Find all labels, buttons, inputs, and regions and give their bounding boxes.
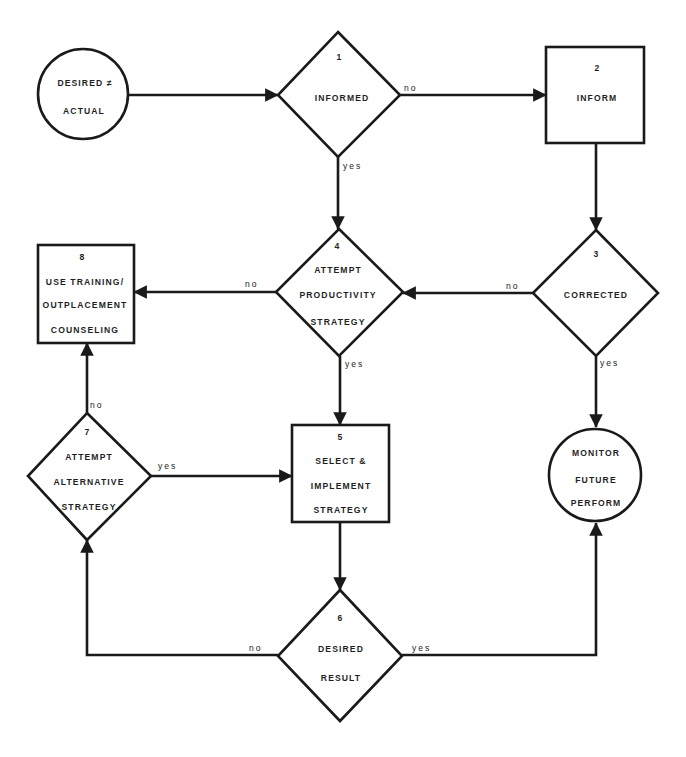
node-number: 5 <box>338 432 343 442</box>
node-label: PRODUCTIVITY <box>299 290 376 300</box>
edge-label-no: no <box>90 400 104 410</box>
node-label: CORRECTED <box>564 290 628 300</box>
node-8-use-training-outplacement-counseling: 8 USE TRAINING/ OUTPLACEMENT COUNSELING <box>38 245 134 343</box>
edge-label-yes: yes <box>158 461 177 471</box>
node-label: INFORM <box>577 93 618 103</box>
edge-label-yes: yes <box>343 161 362 171</box>
node-label: INFORMED <box>315 93 370 103</box>
node-label: OUTPLACEMENT <box>43 300 128 310</box>
node-label: SELECT & <box>315 456 366 466</box>
node-2-inform: 2 INFORM <box>546 47 644 143</box>
node-5-select-implement-strategy: 5 SELECT & IMPLEMENT STRATEGY <box>292 425 389 522</box>
node-number: 7 <box>85 427 90 437</box>
node-number: 6 <box>338 613 343 623</box>
node-6-desired-result: 6 DESIRED RESULT <box>278 590 402 721</box>
edge-label-no: no <box>249 643 263 653</box>
node-label: IMPLEMENT <box>311 481 372 491</box>
node-label: DESIRED <box>318 644 364 654</box>
node-label: STRATEGY <box>311 317 366 327</box>
node-label: ATTEMPT <box>314 265 362 275</box>
edge-label-yes: yes <box>600 358 619 368</box>
edge-label-no: no <box>245 279 259 289</box>
decision-diamond <box>278 590 402 721</box>
node-number: 8 <box>80 252 85 262</box>
node-number: 3 <box>594 249 599 259</box>
node-label: ACTUAL <box>63 106 105 116</box>
flowchart-canvas: no yes no yes no yes no yes no yes DESIR… <box>0 0 686 757</box>
node-label: STRATEGY <box>62 502 117 512</box>
node-label: COUNSELING <box>51 325 119 335</box>
node-label: MONITOR <box>572 448 620 458</box>
node-label: USE TRAINING/ <box>46 277 124 287</box>
node-label: ATTEMPT <box>65 452 113 462</box>
node-label: RESULT <box>321 673 361 683</box>
node-4-attempt-productivity-strategy: 4 ATTEMPT PRODUCTIVITY STRATEGY <box>276 229 403 356</box>
edge-label-yes: yes <box>345 359 364 369</box>
node-number: 2 <box>595 63 600 73</box>
edge-label-yes: yes <box>412 643 431 653</box>
node-1-informed: 1 INFORMED <box>278 32 400 157</box>
node-7-attempt-alternative-strategy: 7 ATTEMPT ALTERNATIVE STRATEGY <box>28 413 151 540</box>
node-label: FUTURE <box>575 475 616 485</box>
node-start-desired-not-equal-actual: DESIRED ≠ ACTUAL <box>38 49 128 139</box>
node-3-corrected: 3 CORRECTED <box>533 230 658 356</box>
edge-labels: no yes no yes no yes no yes no yes <box>90 83 619 653</box>
node-number: 4 <box>335 241 340 251</box>
node-label: PERFORM <box>571 498 622 508</box>
node-end-monitor-future-perform: MONITOR FUTURE PERFORM <box>549 429 641 521</box>
node-label: ALTERNATIVE <box>54 477 125 487</box>
edge-label-no: no <box>404 83 418 93</box>
node-number: 1 <box>337 52 342 62</box>
edge-desired-result-yes-to-monitor <box>402 523 596 655</box>
edges <box>87 95 596 655</box>
node-label: STRATEGY <box>314 505 369 515</box>
start-circle <box>38 49 128 139</box>
node-label: DESIRED ≠ <box>57 78 112 88</box>
edge-desired-result-no-to-alternative <box>87 540 278 655</box>
edge-label-no: no <box>506 281 520 291</box>
